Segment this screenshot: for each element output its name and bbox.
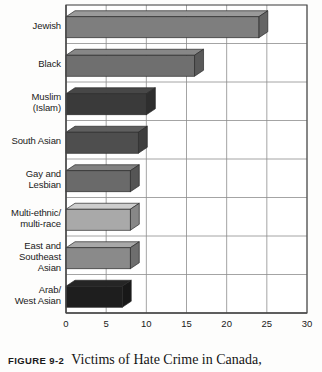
category-label: Black <box>38 58 61 69</box>
figure-number: FIGURE 9-2 <box>8 355 64 366</box>
x-tick-label: 0 <box>63 318 68 329</box>
bar-0 <box>66 11 268 38</box>
category-label: Multi-ethnic/ multi-race <box>11 207 61 229</box>
bar-6 <box>66 242 139 269</box>
category-label: South Asian <box>11 135 61 146</box>
category-label: Gay and Lesbian <box>26 168 61 190</box>
bar-4 <box>66 165 139 192</box>
category-label: East and Southeast Asian <box>19 240 61 273</box>
x-tick-label: 5 <box>104 318 109 329</box>
category-label: Arab/ West Asian <box>15 284 61 306</box>
bar-1 <box>66 49 204 76</box>
hate-crime-bar-chart: JewishBlackMuslim (Islam)South AsianGay … <box>0 0 322 340</box>
x-tick-label: 10 <box>141 318 152 329</box>
x-tick-label: 30 <box>302 318 313 329</box>
figure-caption-text: Victims of Hate Crime in Canada, <box>71 352 261 367</box>
bar-7 <box>66 280 131 307</box>
x-tick-label: 15 <box>181 318 192 329</box>
x-tick-label: 25 <box>262 318 273 329</box>
figure-caption: FIGURE 9-2Victims of Hate Crime in Canad… <box>8 350 318 368</box>
category-label: Muslim (Islam) <box>32 91 61 113</box>
bar-2 <box>66 88 155 115</box>
bar-5 <box>66 203 139 230</box>
x-tick-label: 20 <box>221 318 232 329</box>
bar-3 <box>66 126 147 153</box>
category-label: Jewish <box>33 20 61 31</box>
figure-container: JewishBlackMuslim (Islam)South AsianGay … <box>0 0 322 372</box>
